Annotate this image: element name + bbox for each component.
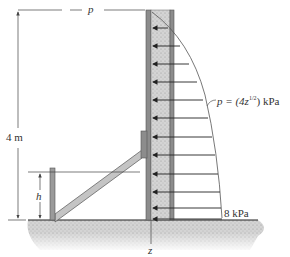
brace <box>50 131 147 222</box>
formula-suffix: ) kPa <box>257 95 280 107</box>
height-dimension-label: 4 m <box>6 132 23 143</box>
wall-left-plate <box>146 10 151 220</box>
brace-bracket <box>141 131 147 158</box>
brace-height-label: h <box>36 191 42 202</box>
p-dimension-label: p <box>88 4 94 15</box>
base-pressure-label: 8 kPa <box>224 208 249 219</box>
wall <box>146 10 174 220</box>
brace-stake <box>50 168 55 220</box>
retaining-wall-diagram: p 4 m h p = (4z1/2) kPa 8 kPa z <box>0 0 290 257</box>
ground <box>20 220 270 252</box>
brace-strut <box>55 150 142 222</box>
formula-leader-line <box>207 100 216 106</box>
dimensions <box>8 10 145 220</box>
pressure-formula: p = (4z1/2) kPa <box>217 95 279 107</box>
z-axis-label: z <box>148 245 152 256</box>
formula-exponent: 1/2 <box>249 95 257 101</box>
wall-core <box>151 10 170 220</box>
formula-prefix: p = (4z <box>217 95 249 107</box>
wall-right-plate <box>170 10 174 220</box>
